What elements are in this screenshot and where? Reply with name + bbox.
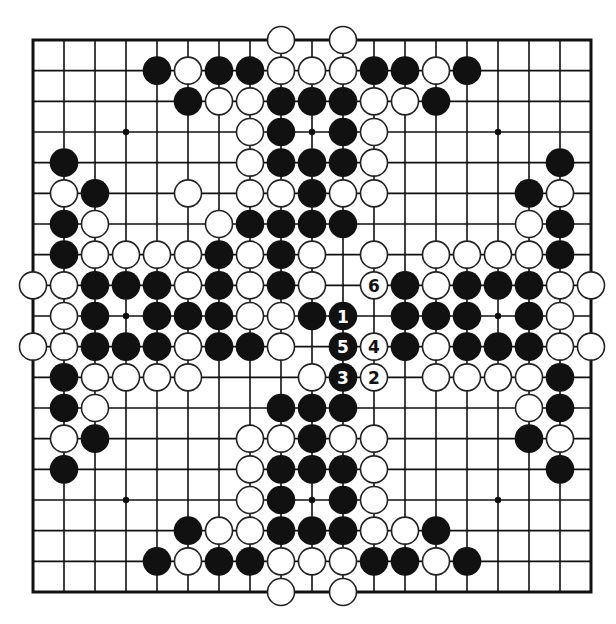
black-stone [236, 56, 265, 85]
numbered-move-4: 4 [361, 333, 388, 360]
black-stone [298, 424, 327, 453]
black-stone [329, 118, 358, 147]
black-stone [143, 302, 172, 331]
white-stone [82, 241, 109, 268]
white-stone [237, 517, 264, 544]
white-stone [299, 548, 326, 575]
white-stone [268, 579, 295, 606]
black-stone [81, 179, 110, 208]
white-stone [578, 333, 605, 360]
white-stone [20, 272, 47, 299]
white-stone [330, 425, 357, 452]
white-stone [268, 548, 295, 575]
white-stone [361, 88, 388, 115]
white-stone [268, 333, 295, 360]
black-stone [50, 210, 79, 239]
white-stone [330, 27, 357, 54]
star-point [123, 313, 129, 319]
black-stone [298, 148, 327, 177]
black-stone [267, 240, 296, 269]
black-stone [546, 210, 575, 239]
black-stone [360, 56, 389, 85]
white-stone [82, 395, 109, 422]
black-stone [50, 148, 79, 177]
black-stone [236, 332, 265, 361]
black-stone [453, 56, 482, 85]
black-stone [515, 302, 544, 331]
white-stone [299, 241, 326, 268]
white-stone [268, 425, 295, 452]
black-stone [267, 486, 296, 515]
white-stone [237, 180, 264, 207]
white-stone [82, 211, 109, 238]
numbered-move-1: 1 [329, 302, 358, 331]
white-stone [175, 548, 202, 575]
white-stone [237, 487, 264, 514]
black-stone [515, 332, 544, 361]
black-stone [329, 87, 358, 116]
white-stone [237, 119, 264, 146]
black-stone [50, 363, 79, 392]
black-stone [143, 332, 172, 361]
black-stone [174, 516, 203, 545]
move-number-label: 6 [368, 276, 380, 296]
white-stone [547, 425, 574, 452]
white-stone [361, 180, 388, 207]
black-stone [143, 271, 172, 300]
white-stone [423, 548, 450, 575]
black-stone [329, 516, 358, 545]
white-stone [237, 88, 264, 115]
white-stone [547, 180, 574, 207]
white-stone [175, 241, 202, 268]
move-number-label: 4 [368, 337, 380, 357]
white-stone [206, 517, 233, 544]
black-stone [81, 332, 110, 361]
white-stone [392, 517, 419, 544]
black-stone [205, 302, 234, 331]
white-stone [578, 272, 605, 299]
white-stone [454, 364, 481, 391]
black-stone [422, 87, 451, 116]
stones [20, 27, 605, 606]
numbered-move-2: 2 [361, 364, 388, 391]
white-stone [268, 303, 295, 330]
black-stone [205, 56, 234, 85]
star-point [495, 313, 501, 319]
white-stone [175, 272, 202, 299]
white-stone [237, 303, 264, 330]
star-point [123, 129, 129, 135]
black-stone [298, 87, 327, 116]
star-point [309, 497, 315, 503]
go-board-diagram: 123456 19 [0, 0, 616, 624]
white-stone [82, 364, 109, 391]
white-stone [299, 57, 326, 84]
black-stone [391, 271, 420, 300]
white-stone [237, 272, 264, 299]
move-number-label: 1 [337, 307, 349, 327]
black-stone [298, 179, 327, 208]
numbered-moves: 123456 [329, 272, 388, 392]
white-stone [361, 119, 388, 146]
white-stone [423, 57, 450, 84]
white-stone [113, 241, 140, 268]
black-stone [267, 516, 296, 545]
black-stone [484, 332, 513, 361]
white-stone [361, 425, 388, 452]
black-stone [329, 394, 358, 423]
black-stone [143, 56, 172, 85]
white-stone [516, 395, 543, 422]
white-stone [206, 211, 233, 238]
white-stone [330, 579, 357, 606]
black-stone [205, 271, 234, 300]
move-number-label: 5 [337, 337, 349, 357]
white-stone [237, 241, 264, 268]
black-stone [236, 547, 265, 576]
black-stone [81, 271, 110, 300]
white-stone [516, 241, 543, 268]
black-stone [267, 148, 296, 177]
black-stone [298, 516, 327, 545]
white-stone [361, 517, 388, 544]
white-stone [330, 57, 357, 84]
black-stone [515, 271, 544, 300]
white-stone [423, 272, 450, 299]
